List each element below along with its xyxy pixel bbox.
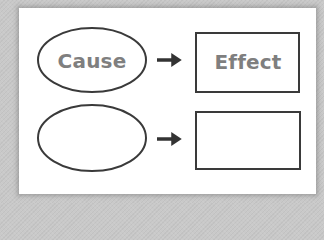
- effect-label-1: Effect: [214, 52, 281, 72]
- cause-effect-diagram: [0, 0, 324, 203]
- row-2: [38, 105, 300, 171]
- cause-label-1: Cause: [58, 51, 127, 71]
- cause-ellipse-2[interactable]: [38, 105, 146, 171]
- effect-box-2[interactable]: [196, 112, 300, 169]
